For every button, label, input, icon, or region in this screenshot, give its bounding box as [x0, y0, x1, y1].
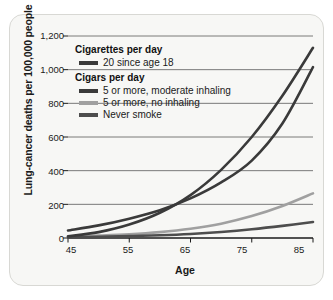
chart-legend: Cigarettes per day 20 since age 18 Cigar…	[75, 44, 231, 121]
legend-heading-cigarettes: Cigarettes per day	[75, 44, 231, 56]
legend-item-cigarettes-20: 20 since age 18	[79, 57, 231, 69]
legend-label-cigars-no-inhaling: 5 or more, no inhaling	[103, 97, 200, 109]
legend-label-cigars-moderate: 5 or more, moderate inhaling	[103, 85, 231, 97]
legend-swatch-cigars-moderate	[79, 89, 98, 93]
legend-swatch-cigars-no-inhaling	[79, 101, 98, 105]
legend-swatch-cigarettes-20	[79, 61, 98, 65]
legend-label-never-smoke: Never smoke	[103, 109, 162, 121]
legend-item-cigars-moderate: 5 or more, moderate inhaling	[79, 85, 231, 97]
legend-item-never-smoke: Never smoke	[79, 109, 231, 121]
lung-cancer-line-chart: Lung-cancer deaths per 100,000 people Ag…	[0, 0, 333, 300]
legend-heading-cigars: Cigars per day	[75, 72, 231, 84]
legend-swatch-never-smoke	[79, 113, 98, 117]
legend-item-cigars-no-inhaling: 5 or more, no inhaling	[79, 97, 231, 109]
legend-label-cigarettes-20: 20 since age 18	[103, 57, 174, 69]
